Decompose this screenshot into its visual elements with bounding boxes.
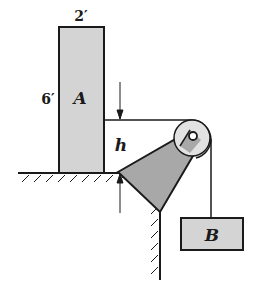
block-b-label: B bbox=[204, 225, 219, 245]
block-a-label: A bbox=[71, 88, 86, 108]
height-label: 6′ bbox=[41, 91, 55, 107]
diagram: A 2′ 6′ B h bbox=[0, 0, 260, 298]
pulley-pin bbox=[189, 132, 197, 140]
h-label: h bbox=[115, 135, 127, 155]
width-label: 2′ bbox=[74, 8, 88, 24]
